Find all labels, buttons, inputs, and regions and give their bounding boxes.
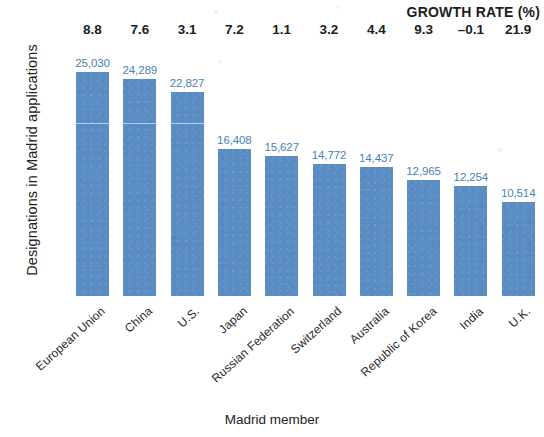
bar-russian-federation: [265, 156, 298, 296]
bar-chart-figure: Designations in Madrid applications GROW…: [0, 0, 544, 437]
bar-japan: [218, 149, 251, 296]
bar-u-k: [502, 202, 535, 296]
plot-area: 25,03024,28922,82716,40815,62714,77214,4…: [0, 0, 544, 437]
bar-value-label: 24,289: [110, 64, 170, 76]
bar-value-label: 14,437: [346, 152, 406, 164]
bar-china: [123, 79, 156, 296]
x-axis-title: Madrid member: [0, 412, 544, 427]
bar-value-label: 12,254: [441, 171, 501, 183]
bar-value-label: 22,827: [157, 77, 217, 89]
bar-value-label: 10,514: [488, 187, 544, 199]
bar-india: [454, 186, 487, 296]
bar-australia: [360, 167, 393, 296]
bar-republic-of-korea: [407, 180, 440, 296]
bar-switzerland: [313, 164, 346, 296]
bar-european-union: [76, 72, 109, 296]
bar-u-s: [171, 92, 204, 296]
